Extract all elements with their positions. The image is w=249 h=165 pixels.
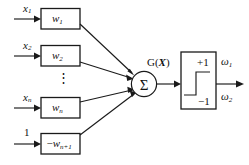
activation-box[interactable]: +1 −1 [181,52,216,109]
gx-close: ) [166,56,170,69]
transfer-function-label: G(X) [147,56,170,69]
weight-sub-2: 2 [59,55,63,63]
input-arrowhead-n [34,105,41,112]
synapse-line-1 [80,24,132,73]
output-arrow [216,81,244,88]
gx-base: G( [147,56,159,69]
input-sub-2: 2 [28,44,32,52]
input-arrowhead-2 [34,53,41,60]
omega-sub-2: 2 [229,95,233,103]
output-class-label-2: ω2 [221,90,233,104]
vertical-ellipsis: ⋮ [57,70,70,85]
summation-node[interactable]: Σ [131,71,156,96]
perceptron-diagram: w1 x1 w2 x2 ⋮ wn xn [0,0,249,165]
connector-arrowhead [174,81,181,88]
sigma-glyph: Σ [140,77,149,93]
weight-sub-1: 1 [59,18,63,26]
diagram-canvas: w1 x1 w2 x2 ⋮ wn xn [0,0,249,165]
weight-sub-bias: n+1 [60,143,72,151]
input-arrowhead-1 [34,16,41,23]
output-class-label-1: ω1 [221,55,232,69]
omega-sub-1: 1 [229,60,233,68]
input-sub-1: 1 [28,7,32,15]
weight-sub-n: n [59,107,63,115]
activation-high-label: +1 [197,56,209,68]
input-arrowhead-bias [34,141,41,148]
input-label-1: x1 [22,1,31,15]
input-row-n: wn xn [14,87,134,118]
input-label-bias: 1 [24,126,30,138]
input-label-2: x2 [22,38,32,52]
synapse-line-n [80,90,132,102]
output-arrowhead [236,81,244,88]
input-sub-n: n [28,96,32,104]
input-row-2: w2 x2 [14,38,134,81]
activation-low-label: −1 [198,95,210,107]
input-label-n: xn [22,90,32,104]
summation-to-activation-connector [157,81,181,88]
